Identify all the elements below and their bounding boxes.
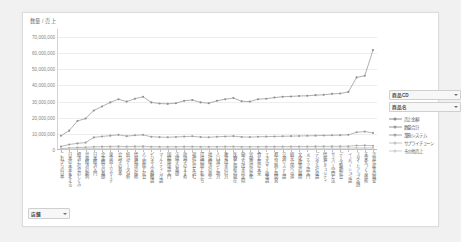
data-point xyxy=(372,145,374,147)
x-tick-label: 企業経営の基礎 xyxy=(100,152,104,178)
data-point xyxy=(249,136,251,138)
x-tick-label: 東京商工リサーチ xyxy=(108,152,112,182)
legend-item[interactable]: 売上金額 xyxy=(389,115,461,123)
data-point xyxy=(364,75,366,77)
data-point xyxy=(298,135,300,137)
data-point xyxy=(323,145,325,147)
x-tick-mark xyxy=(357,149,358,152)
data-point xyxy=(150,136,152,138)
x-tick-label: これからの日本 xyxy=(59,152,63,178)
x-tick-mark xyxy=(217,149,218,152)
data-point xyxy=(158,136,160,138)
legend-item[interactable]: その他売上 xyxy=(389,147,461,155)
data-point xyxy=(290,135,292,137)
x-tick-mark xyxy=(143,149,144,152)
data-point xyxy=(175,136,177,138)
legend-items: 売上金額数量合計業務システムサプライチェーンその他売上 xyxy=(389,115,461,155)
x-tick-label: 現代社会を読む xyxy=(190,152,194,178)
x-tick-label: 環境問題と私たち xyxy=(198,152,202,182)
data-point xyxy=(331,145,333,147)
data-point xyxy=(372,132,374,134)
chevron-down-icon[interactable] xyxy=(63,213,67,215)
data-point xyxy=(265,136,267,138)
x-tick-label: 次世代産業の展望 xyxy=(371,152,375,182)
x-tick-label: 働き方改革の実際 xyxy=(239,152,243,182)
x-tick-label: 法律学の基礎 xyxy=(174,152,178,174)
x-tick-mark xyxy=(242,149,243,152)
data-point xyxy=(93,109,95,111)
data-point xyxy=(339,92,341,94)
x-tick-mark xyxy=(250,149,251,152)
y-tick-label: 50,000,000 xyxy=(32,67,55,72)
slicer-product-name[interactable]: 商品名 xyxy=(389,102,461,112)
data-point xyxy=(191,99,193,101)
data-point xyxy=(183,136,185,138)
x-tick-mark xyxy=(176,149,177,152)
x-tick-mark xyxy=(332,149,333,152)
legend-item[interactable]: 業務システム xyxy=(389,131,461,139)
data-point xyxy=(314,145,316,147)
data-point xyxy=(314,135,316,137)
x-tick-mark xyxy=(373,149,374,152)
x-tick-label: 食と農の未来 xyxy=(256,152,260,174)
data-point xyxy=(167,103,169,105)
chevron-down-icon[interactable] xyxy=(454,106,458,108)
x-tick-label: デジタル社会論 xyxy=(313,152,317,178)
x-tick-label: 人口減少と地方 xyxy=(215,152,219,178)
x-tick-mark xyxy=(86,149,87,152)
x-tick-label: マーケティング論 xyxy=(157,152,161,182)
data-point xyxy=(150,101,152,103)
data-point xyxy=(117,145,119,147)
data-point xyxy=(290,95,292,97)
x-tick-mark xyxy=(135,149,136,152)
x-axis-ticks: これからの日本日本の未来を考える経済と社会のしくみ世界経済の動向日本経済入門企業… xyxy=(57,152,377,208)
data-point xyxy=(85,142,87,144)
x-tick-label: サイバー空間と法 xyxy=(330,152,334,182)
legend-and-slicers: 商品CD 商品名 売上金額数量合計業務システムサプライチェーンその他売上 xyxy=(389,90,461,158)
x-tick-label: 日本経済入門 xyxy=(92,152,96,174)
data-point xyxy=(183,100,185,102)
legend-label: 売上金額 xyxy=(404,116,419,122)
data-point xyxy=(282,96,284,98)
x-tick-label: エネルギー政策論 xyxy=(264,152,268,182)
data-point xyxy=(208,136,210,138)
x-tick-label: 人工知能と社会 xyxy=(141,152,145,178)
x-tick-label: イノベーション論 xyxy=(346,152,350,182)
slicer-product-code[interactable]: 商品CD xyxy=(389,90,461,100)
data-point xyxy=(109,135,111,137)
x-tick-mark xyxy=(102,149,103,152)
data-point xyxy=(282,135,284,137)
x-tick-label: 情報処理の技術 xyxy=(133,152,137,178)
x-tick-label: 経済と社会のしくみ xyxy=(75,152,79,185)
data-point xyxy=(167,136,169,138)
series-line xyxy=(61,132,373,147)
x-tick-mark xyxy=(160,149,161,152)
data-point xyxy=(117,134,119,136)
x-tick-label: 医療と福祉の現在 xyxy=(231,152,235,182)
y-tick-label: 70,000,000 xyxy=(32,35,55,40)
x-tick-mark xyxy=(365,149,366,152)
data-point xyxy=(101,135,103,137)
data-point xyxy=(356,131,358,133)
x-tick-label: 国際関係論入門 xyxy=(166,152,170,178)
x-tick-label: 労働市場の変化 xyxy=(248,152,252,178)
legend-item[interactable]: サプライチェーン xyxy=(389,139,461,147)
legend-marker-icon xyxy=(389,148,402,154)
data-point xyxy=(175,102,177,104)
filter-store-button[interactable]: 店舗 xyxy=(28,208,70,219)
y-tick-label: 60,000,000 xyxy=(32,51,55,56)
x-tick-mark xyxy=(266,149,267,152)
data-point xyxy=(208,102,210,104)
data-point xyxy=(364,144,366,146)
data-point xyxy=(200,101,202,103)
chevron-down-icon[interactable] xyxy=(454,94,458,96)
data-point xyxy=(142,134,144,136)
x-tick-mark xyxy=(77,149,78,152)
data-point xyxy=(232,97,234,99)
legend-label: その他売上 xyxy=(404,148,423,154)
data-point xyxy=(347,91,349,93)
x-tick-label: 観光立国への道 xyxy=(289,152,293,178)
legend-item[interactable]: 数量合計 xyxy=(389,123,461,131)
y-axis-title: 数量 / 売上 xyxy=(30,17,56,24)
x-tick-mark xyxy=(283,149,284,152)
